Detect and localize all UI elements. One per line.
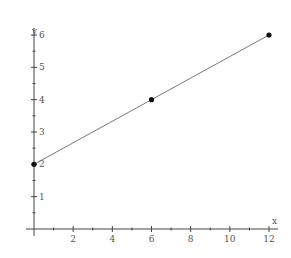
y-tick-label: 5 [39, 62, 45, 72]
y-tick-label: 6 [39, 30, 45, 40]
data-point-marker [149, 97, 154, 102]
x-tick-label: 8 [188, 234, 194, 244]
x-tick-label: 4 [109, 234, 115, 244]
data-series [31, 32, 271, 167]
x-tick-label: 10 [224, 234, 236, 244]
data-point-marker [31, 162, 36, 167]
x-axis-label: x [272, 216, 277, 226]
ticks [31, 35, 269, 232]
y-tick-label: 1 [39, 192, 45, 202]
line-chart: 24681012123456 x y [0, 0, 291, 258]
y-tick-label: 4 [39, 95, 45, 105]
data-point-marker [266, 32, 271, 37]
axes [26, 28, 278, 236]
x-tick-label: 12 [263, 234, 274, 244]
x-tick-label: 6 [149, 234, 155, 244]
y-tick-label: 3 [39, 127, 45, 137]
tick-labels: 24681012123456 [39, 30, 275, 244]
x-tick-label: 2 [70, 234, 76, 244]
y-axis-label: y [31, 26, 38, 36]
